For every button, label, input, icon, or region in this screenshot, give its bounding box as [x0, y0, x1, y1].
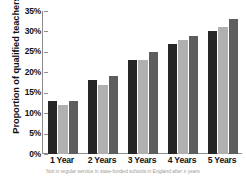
bar — [98, 85, 107, 154]
bar — [218, 27, 227, 154]
y-tick-label: 20% — [25, 67, 41, 77]
chart-figure: Proportion of qualified teachers 0%5%10%… — [0, 0, 246, 176]
plot-area: 0%5%10%15%20%25%30%35% — [42, 11, 242, 154]
bar-group — [123, 11, 163, 154]
bar — [189, 36, 198, 154]
bar — [149, 52, 158, 154]
x-axis-ticks: 1 Year2 Years3 Years4 Years5 Years — [42, 155, 242, 167]
bar — [69, 101, 78, 154]
bar-group — [163, 11, 203, 154]
bar-group — [43, 11, 83, 154]
bar — [208, 31, 217, 154]
y-tick-label: 0% — [29, 149, 41, 159]
bar — [138, 60, 147, 154]
x-tick-label: 5 Years — [202, 155, 242, 165]
bar-group — [203, 11, 243, 154]
y-tick-label: 10% — [25, 108, 41, 118]
y-tick-label: 35% — [25, 6, 41, 16]
bar — [58, 105, 67, 154]
bar — [48, 101, 57, 154]
bar-group — [83, 11, 123, 154]
x-tick-label: 4 Years — [162, 155, 202, 165]
bar — [178, 40, 187, 154]
bar — [168, 44, 177, 154]
bar — [88, 80, 97, 154]
x-tick-label: 3 Years — [122, 155, 162, 165]
x-tick-label: 2 Years — [82, 155, 122, 165]
y-tick-label: 25% — [25, 46, 41, 56]
x-tick-label: 1 Year — [42, 155, 82, 165]
y-tick-label: 5% — [29, 128, 41, 138]
bars-layer — [43, 11, 242, 154]
y-axis-title: Proportion of qualified teachers — [11, 0, 21, 135]
figure-caption: Not in regular service in state-funded s… — [0, 168, 246, 174]
bar — [128, 60, 137, 154]
bar — [109, 76, 118, 154]
y-tick-label: 15% — [25, 87, 41, 97]
y-tick-label: 30% — [25, 26, 41, 36]
bar — [229, 19, 238, 154]
